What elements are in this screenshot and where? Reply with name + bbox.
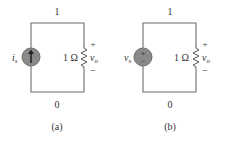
resistor-value-b: 1 Ω [174, 52, 189, 63]
voltage-source-icon: + − [134, 48, 152, 66]
caption-a: (a) [51, 121, 62, 133]
output-plus-a: + [90, 39, 95, 49]
voltage-source-minus: − [141, 57, 146, 66]
circuit-a: 1 0 is 1 Ω + vo − (a) [12, 6, 98, 133]
caption-b: (b) [164, 121, 176, 133]
node-label-bottom-b: 0 [168, 99, 173, 110]
output-label-a: vo [90, 52, 98, 65]
node-label-top-a: 1 [55, 6, 60, 17]
source-label-b: vs [124, 52, 131, 65]
resistor-value-a: 1 Ω [63, 52, 78, 63]
resistor-icon [193, 46, 199, 69]
node-label-bottom-a: 0 [55, 99, 60, 110]
circuit-figure: 1 0 is 1 Ω + vo − (a) 1 0 [0, 0, 225, 145]
node-label-top-b: 1 [168, 6, 173, 17]
current-source-icon [22, 48, 40, 66]
output-minus-a: − [90, 65, 96, 76]
source-label-a: is [12, 52, 18, 65]
output-label-b: vo [202, 52, 210, 65]
circuit-b: 1 0 + − vs 1 Ω + vo − (b) [124, 6, 210, 133]
output-minus-b: − [202, 65, 208, 76]
output-plus-b: + [202, 39, 207, 49]
resistor-icon [81, 46, 87, 69]
